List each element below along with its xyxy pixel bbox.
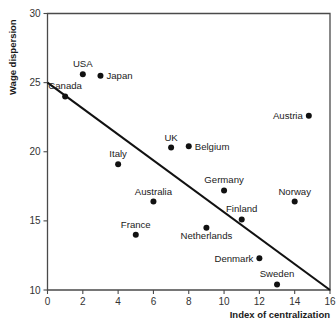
chart-canvas: 1015202530 0246810121416 CanadaUSAJapanI… — [0, 0, 336, 323]
data-point-label: Belgium — [195, 141, 230, 152]
data-point-marker — [186, 143, 192, 149]
x-tick-label: 4 — [115, 296, 121, 307]
y-tick-label: 25 — [29, 77, 41, 88]
data-point: Italy — [109, 148, 127, 167]
data-point: Germany — [204, 174, 244, 193]
x-tick-label: 8 — [186, 296, 192, 307]
data-point-marker — [239, 216, 245, 222]
data-point: Finland — [226, 203, 257, 222]
data-point-label: Germany — [204, 174, 244, 185]
data-point-label: UK — [164, 132, 178, 143]
data-point-label: Austria — [273, 110, 304, 121]
x-tick-label: 2 — [80, 296, 86, 307]
data-point: USA — [73, 58, 93, 77]
data-point: Austria — [273, 110, 312, 121]
x-tick-label: 16 — [324, 296, 336, 307]
data-point-marker — [274, 281, 280, 287]
data-point-marker — [292, 199, 298, 205]
data-point-label: Japan — [106, 70, 132, 81]
data-point-marker — [97, 73, 103, 79]
y-tick-label: 15 — [29, 215, 41, 226]
plot-frame — [48, 14, 331, 291]
data-point-marker — [80, 71, 86, 77]
x-tick-label: 6 — [151, 296, 157, 307]
data-point: UK — [164, 132, 178, 151]
data-point-marker — [62, 93, 68, 99]
data-point: Australia — [135, 186, 173, 205]
data-point-label: Italy — [109, 148, 127, 159]
data-point-marker — [306, 113, 312, 119]
data-point-label: Denmark — [214, 253, 253, 264]
y-tick-label: 30 — [29, 8, 41, 19]
x-axis-title: Index of centralization — [230, 309, 330, 320]
y-tick-label: 10 — [29, 285, 41, 296]
y-tick-label: 20 — [29, 146, 41, 157]
data-point-label: Netherlands — [181, 230, 233, 241]
x-tick-label: 0 — [45, 296, 51, 307]
data-points-group: CanadaUSAJapanItalyFranceAustraliaUKBelg… — [48, 58, 311, 287]
y-axis-title: Wage dispersion — [7, 19, 18, 95]
data-point-label: Norway — [278, 186, 311, 197]
data-point-marker — [168, 145, 174, 151]
data-point-marker — [150, 199, 156, 205]
data-point: France — [121, 219, 151, 238]
x-tick-label: 12 — [254, 296, 266, 307]
y-axis-ticks: 1015202530 — [29, 8, 47, 296]
wage-dispersion-scatter-chart: 1015202530 0246810121416 CanadaUSAJapanI… — [0, 0, 336, 323]
data-point-marker — [115, 161, 121, 167]
data-point-marker — [221, 187, 227, 193]
data-point-label: Finland — [226, 203, 257, 214]
data-point-label: Canada — [48, 80, 82, 91]
data-point: Netherlands — [181, 225, 233, 242]
data-point-label: USA — [73, 58, 93, 69]
data-point: Canada — [48, 80, 82, 99]
data-point: Sweden — [260, 268, 295, 287]
data-point-label: Sweden — [260, 268, 295, 279]
axes-group — [48, 14, 331, 291]
data-point: Japan — [97, 70, 132, 81]
x-tick-label: 14 — [289, 296, 301, 307]
data-point: Belgium — [186, 141, 230, 152]
data-point-marker — [256, 255, 262, 261]
data-point-marker — [133, 232, 139, 238]
x-tick-label: 10 — [219, 296, 231, 307]
data-point: Denmark — [214, 253, 262, 264]
x-axis-ticks: 0246810121416 — [45, 290, 336, 307]
data-point-label: France — [121, 219, 151, 230]
data-point: Norway — [278, 186, 311, 205]
data-point-label: Australia — [135, 186, 173, 197]
